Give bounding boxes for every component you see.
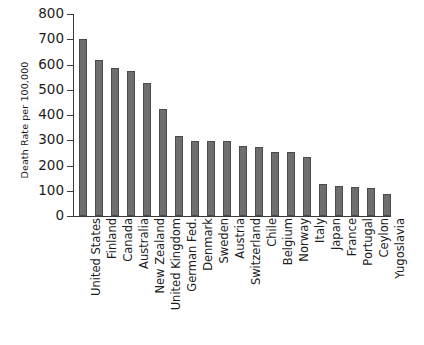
x-axis-tick-label: Norway <box>297 218 311 262</box>
y-axis-tick-label: 600 <box>26 58 64 72</box>
x-axis-tick-label: Ceylon <box>377 218 391 257</box>
x-axis-tick-label-text: Ceylon <box>377 218 391 257</box>
bar <box>303 157 311 216</box>
x-axis-tick-label: Chile <box>265 218 279 247</box>
x-axis-tick-label: Sweden <box>217 218 231 263</box>
y-axis-tick-mark <box>67 39 73 40</box>
x-axis-tick-label: German Fed. <box>185 218 199 292</box>
x-axis-tick-labels: United StatesFinlandCanadaAustraliaNew Z… <box>74 218 391 345</box>
y-axis-tick-label: 200 <box>26 159 64 173</box>
bar <box>207 141 215 216</box>
bar <box>95 60 103 216</box>
x-axis-tick-label-text: Chile <box>265 218 279 247</box>
x-axis-tick-label-text: Norway <box>297 218 311 262</box>
x-axis-tick-label: Denmark <box>201 218 215 271</box>
x-axis-tick-label-text: Austria <box>233 218 247 259</box>
x-axis-tick-label-text: Portugal <box>361 218 375 266</box>
y-axis-tick-mark <box>67 90 73 91</box>
bar <box>223 141 231 216</box>
x-axis-tick-label-text: Canada <box>121 218 135 262</box>
y-axis-tick-label: 800 <box>26 7 64 21</box>
x-axis-tick-label-text: Sweden <box>217 218 231 263</box>
bar <box>335 186 343 216</box>
bar <box>287 152 295 216</box>
x-axis-tick-label-text: Switzerland <box>249 218 263 285</box>
y-axis-tick-label: 300 <box>26 134 64 148</box>
bar <box>319 184 327 216</box>
x-axis-tick-label-text: Italy <box>313 218 327 243</box>
x-axis-tick-label: Italy <box>313 218 327 243</box>
y-axis-tick-mark <box>67 216 73 217</box>
bar <box>351 187 359 216</box>
y-axis-tick-mark <box>67 166 73 167</box>
y-axis-tick-label: 100 <box>26 184 64 198</box>
x-axis-tick-label-text: France <box>345 218 359 256</box>
x-axis-tick-label: Portugal <box>361 218 375 266</box>
x-axis-tick-label: Australia <box>137 218 151 269</box>
x-axis-tick-label-text: Australia <box>137 218 151 269</box>
bar-chart: Death Rate per 100,000 01002003004005006… <box>0 0 424 345</box>
x-axis-tick-label: Austria <box>233 218 247 259</box>
x-axis-tick-label: Finland <box>105 218 119 259</box>
plot-area <box>74 14 391 216</box>
y-axis-tick-label: 0 <box>26 209 64 223</box>
bar <box>191 141 199 216</box>
y-axis-tick-labels: 0100200300400500600700800 <box>26 0 64 345</box>
x-axis-tick-label: Japan <box>329 218 343 250</box>
x-axis-tick-label-text: German Fed. <box>185 218 199 292</box>
bar <box>111 68 119 216</box>
x-axis-tick-label: Yugoslavia <box>393 218 407 279</box>
y-axis-tick-mark <box>67 140 73 141</box>
x-axis-tick-label-text: United Kingdom <box>169 218 183 310</box>
bar <box>271 152 279 216</box>
bar <box>239 146 247 216</box>
y-axis-tick-mark <box>67 191 73 192</box>
bar <box>143 83 151 216</box>
x-axis-tick-label-text: Denmark <box>201 218 215 271</box>
x-axis-tick-label-text: United States <box>89 218 103 296</box>
bar <box>175 136 183 216</box>
x-axis-tick-label-text: Finland <box>105 218 119 259</box>
x-axis-tick-label: France <box>345 218 359 256</box>
x-axis-tick-label: United States <box>89 218 103 296</box>
x-axis-tick-label: Belgium <box>281 218 295 265</box>
x-axis-tick-label: Canada <box>121 218 135 262</box>
x-axis-tick-label-text: Japan <box>329 218 343 250</box>
y-axis-tick-label: 700 <box>26 33 64 47</box>
x-axis-tick-label-text: Belgium <box>281 218 295 265</box>
bar <box>255 147 263 216</box>
y-axis-tick-mark <box>67 65 73 66</box>
x-axis-tick-label: Switzerland <box>249 218 263 285</box>
bar <box>367 188 375 216</box>
y-axis-tick-mark <box>67 14 73 15</box>
y-axis-tick-label: 500 <box>26 83 64 97</box>
x-axis-line <box>73 216 391 217</box>
y-axis-tick-mark <box>67 115 73 116</box>
bar <box>159 109 167 216</box>
bar <box>127 71 135 216</box>
bar <box>79 39 87 216</box>
bar <box>383 194 391 216</box>
x-axis-tick-label: United Kingdom <box>169 218 183 310</box>
y-axis-tick-label: 400 <box>26 108 64 122</box>
x-axis-tick-label-text: New Zealand <box>153 218 167 294</box>
x-axis-tick-label: New Zealand <box>153 218 167 294</box>
x-axis-tick-label-text: Yugoslavia <box>393 218 407 279</box>
